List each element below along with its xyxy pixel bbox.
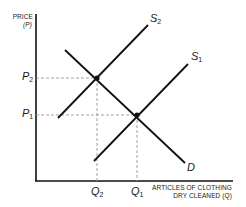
supply-demand-plot [0,0,246,207]
x-axis-title-line1: ARTICLES OF CLOTHING [150,184,232,192]
price-tick-p1: P1 [22,107,33,120]
curve-label-s1: S1 [191,50,202,63]
y-axis-title-line2: (P) [11,21,33,29]
supply-curve-s1 [94,64,188,161]
equilibrium-point-2 [94,75,99,80]
y-axis-title: PRICE (P) [11,13,33,29]
equilibrium-point-1 [134,112,139,117]
y-axis-title-line1: PRICE [11,13,33,21]
curve-label-s2: S2 [150,12,161,25]
price-tick-p2: P2 [22,70,33,83]
quantity-tick-q1: Q1 [131,185,143,198]
supply-curve-s2 [58,25,148,118]
curve-label-d: D [187,161,195,173]
x-axis-title: ARTICLES OF CLOTHING DRY CLEANED (Q) [150,184,232,200]
x-axis-title-line2: DRY CLEANED (Q) [150,192,232,200]
demand-curve [65,50,185,163]
quantity-tick-q2: Q2 [91,185,103,198]
